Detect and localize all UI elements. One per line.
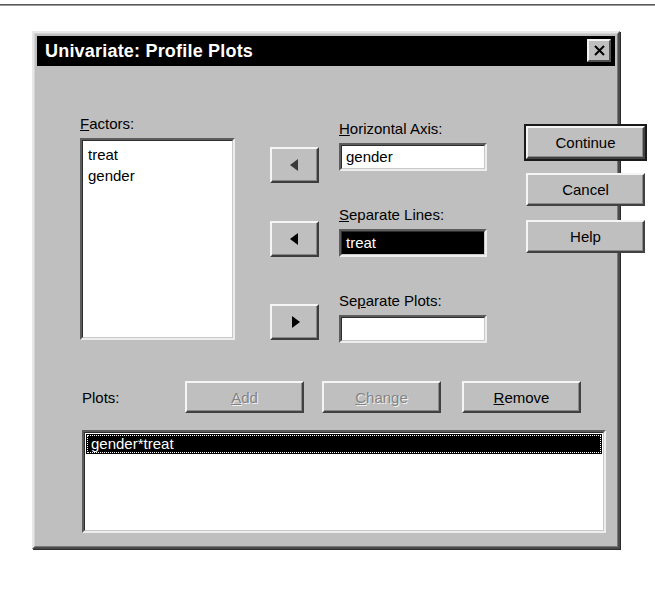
- dialog-title: Univariate: Profile Plots: [45, 41, 253, 62]
- separate-plots-label: Separate Plots:: [339, 292, 442, 309]
- factors-listbox[interactable]: treat gender: [80, 138, 235, 340]
- separate-plots-label-rest: arate Plots:: [366, 292, 442, 309]
- horizontal-axis-input[interactable]: gender: [339, 143, 487, 171]
- separate-lines-input[interactable]: treat: [339, 229, 487, 257]
- list-item[interactable]: gender: [82, 165, 233, 186]
- remove-button[interactable]: Remove: [462, 381, 581, 413]
- change-button-label: Change: [355, 389, 408, 406]
- close-button[interactable]: [587, 39, 611, 62]
- horizontal-axis-label-rest: orizontal Axis:: [350, 120, 443, 137]
- separate-lines-value: treat: [341, 231, 485, 255]
- separate-lines-label-rest: eparate Lines:: [349, 206, 444, 223]
- horizontal-axis-value: gender: [341, 145, 485, 169]
- dialog-titlebar[interactable]: Univariate: Profile Plots: [37, 36, 615, 66]
- arrow-right-icon-button-separate-plots[interactable]: [270, 304, 319, 340]
- factors-label-rest: actors:: [89, 115, 134, 132]
- profile-plots-dialog: Univariate: Profile Plots Factors: treat…: [32, 31, 620, 549]
- arrow-left-icon: [288, 158, 302, 172]
- separate-plots-label-start: Se: [339, 292, 357, 309]
- cancel-button[interactable]: Cancel: [526, 173, 645, 206]
- horizontal-axis-label: Horizontal Axis:: [339, 120, 442, 137]
- arrow-right-icon: [288, 315, 302, 329]
- close-x-icon: [593, 44, 606, 57]
- list-item[interactable]: gender*treat: [86, 434, 602, 454]
- remove-button-label: Remove: [494, 389, 550, 406]
- continue-button[interactable]: Continue: [526, 126, 645, 159]
- help-button[interactable]: Help: [526, 220, 645, 253]
- page-top-rule: [0, 4, 655, 6]
- add-button-label: Add: [231, 389, 258, 406]
- change-button[interactable]: Change: [322, 381, 441, 413]
- arrow-left-icon-button-separate-lines[interactable]: [270, 221, 319, 257]
- arrow-left-icon-button-horizontal-axis[interactable]: [270, 147, 319, 183]
- arrow-left-icon: [288, 232, 302, 246]
- plots-listbox[interactable]: gender*treat: [82, 430, 606, 533]
- add-button[interactable]: Add: [185, 381, 304, 413]
- separate-plots-input[interactable]: [339, 315, 487, 343]
- factors-label: Factors:: [80, 115, 134, 132]
- list-item[interactable]: treat: [82, 144, 233, 165]
- plots-label: Plots:: [82, 389, 120, 406]
- separate-lines-label: Separate Lines:: [339, 206, 444, 223]
